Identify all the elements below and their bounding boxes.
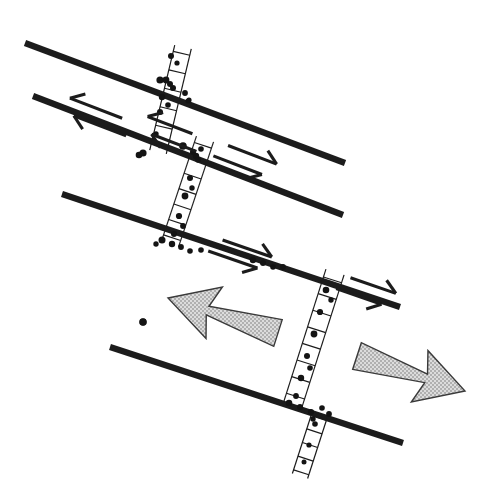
isolated-clast <box>139 318 147 326</box>
fault-trace-clast <box>250 257 256 263</box>
fault-trace-clast <box>156 76 163 83</box>
fault-trace-clast <box>169 241 175 247</box>
fault-trace-clast <box>260 260 266 266</box>
fault-trace-clast <box>308 409 314 415</box>
band-clast <box>198 146 204 152</box>
fault-trace-clast <box>182 90 188 96</box>
fault-trace-clast <box>280 264 286 270</box>
fault-trace-clast <box>297 404 303 410</box>
fault-trace-clast <box>198 247 204 253</box>
fault-trace-clast <box>187 248 193 254</box>
fault-trace-clast <box>270 264 276 270</box>
band-clast <box>159 94 165 100</box>
fault-trace-clast <box>159 237 166 244</box>
fault-trace-clast <box>167 81 173 87</box>
band-clast <box>168 53 174 59</box>
fault-trace-clast <box>286 400 293 407</box>
band-clast <box>302 460 307 465</box>
structural-geology-figure <box>0 0 498 498</box>
band-clast <box>171 231 177 237</box>
band-clast <box>174 60 179 65</box>
fault-trace-clast <box>326 411 332 417</box>
band-clast <box>187 175 193 181</box>
fault-trace-clast <box>310 416 315 421</box>
isolated-clast <box>139 149 146 156</box>
band-clast <box>176 213 182 219</box>
band-clast <box>317 309 323 315</box>
band-clast <box>306 442 311 447</box>
fault-trace-clast <box>178 244 184 250</box>
band-clast <box>304 353 310 359</box>
band-clast <box>323 287 330 294</box>
band-clast <box>328 297 333 302</box>
band-clast <box>165 102 171 108</box>
band-clast <box>182 193 189 200</box>
band-clast <box>189 185 194 190</box>
isolated-clast <box>186 97 191 102</box>
figure-canvas <box>0 0 498 498</box>
band-clast <box>311 331 318 338</box>
band-clast <box>293 393 299 399</box>
band-clast <box>180 223 186 229</box>
fault-trace-clast <box>319 405 325 411</box>
fault-trace-clast <box>195 157 201 163</box>
fault-trace-clast <box>153 241 158 246</box>
band-clast <box>312 421 318 427</box>
band-clast <box>307 365 313 371</box>
band-clast <box>298 375 304 381</box>
